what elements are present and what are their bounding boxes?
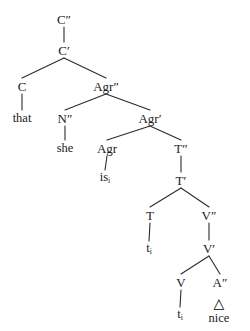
tree-node-V: V bbox=[176, 276, 185, 289]
syntax-tree-figure: C″C′CthatAgr″N″sheAgr′AgrisiT″T′TtiV″V′V… bbox=[0, 0, 250, 331]
tree-node-C: C bbox=[18, 80, 27, 93]
tree-edge bbox=[150, 126, 181, 140]
tree-node-tT: ti bbox=[146, 242, 152, 256]
tree-node-Vmax: V″ bbox=[202, 209, 217, 222]
tree-node-Agrmax: Agr″ bbox=[93, 80, 119, 93]
tree-node-subscript: i bbox=[150, 247, 152, 256]
tree-edge bbox=[65, 94, 106, 110]
tree-edge bbox=[105, 156, 107, 170]
tree-node-Cbar: C′ bbox=[58, 44, 70, 57]
tree-node-she: she bbox=[57, 142, 74, 155]
tree-node-label: she bbox=[57, 141, 74, 155]
tree-node-Agr: Agr bbox=[97, 142, 117, 155]
tree-node-label: that bbox=[13, 111, 32, 125]
tree-node-is: isi bbox=[100, 171, 111, 185]
tree-node-that: that bbox=[13, 112, 32, 125]
tree-node-tV: ti bbox=[177, 308, 183, 322]
tree-node-Amax: A″ bbox=[213, 276, 228, 289]
tree-node-Nmax: N″ bbox=[58, 112, 73, 125]
tree-node-label: V″ bbox=[202, 208, 217, 223]
tree-node-label: C′ bbox=[58, 43, 70, 58]
tree-node-Tmax: T″ bbox=[174, 142, 187, 155]
tree-edge bbox=[64, 58, 106, 78]
tree-node-Cmax: C″ bbox=[57, 13, 71, 26]
tree-edge bbox=[181, 188, 209, 207]
tree-node-label: V bbox=[176, 275, 185, 290]
tree-node-label: Agr′ bbox=[138, 111, 161, 126]
tree-node-Vbar: V′ bbox=[203, 242, 215, 255]
tree-node-label: T″ bbox=[174, 141, 187, 156]
tree-node-label: Agr″ bbox=[93, 79, 119, 94]
tree-node-Agrbar: Agr′ bbox=[138, 112, 161, 125]
tree-node-label: Agr bbox=[97, 141, 117, 156]
tree-edge bbox=[22, 58, 64, 78]
tree-edge bbox=[107, 126, 150, 140]
tree-edge bbox=[150, 188, 181, 207]
tree-node-Tbar: T′ bbox=[176, 174, 187, 187]
tree-node-label: A″ bbox=[213, 275, 228, 290]
tree-node-label: T′ bbox=[176, 173, 187, 188]
tree-node-subscript: i bbox=[108, 176, 110, 185]
tree-edge bbox=[149, 223, 150, 241]
tree-node-label: N″ bbox=[58, 111, 73, 126]
tree-node-subscript: i bbox=[181, 313, 183, 322]
tree-node-label: V′ bbox=[203, 241, 215, 256]
tree-node-nice: △nice bbox=[209, 297, 230, 325]
tree-edge bbox=[106, 94, 150, 110]
tree-node-label: C bbox=[18, 79, 27, 94]
tree-edge bbox=[209, 256, 220, 274]
tree-node-label: nice bbox=[209, 312, 230, 325]
triangle-icon: △ bbox=[214, 297, 225, 311]
tree-edge bbox=[181, 256, 209, 274]
tree-node-T: T bbox=[146, 209, 154, 222]
tree-node-label: T bbox=[146, 208, 154, 223]
tree-edge bbox=[180, 290, 181, 307]
tree-node-label: C″ bbox=[57, 12, 71, 27]
